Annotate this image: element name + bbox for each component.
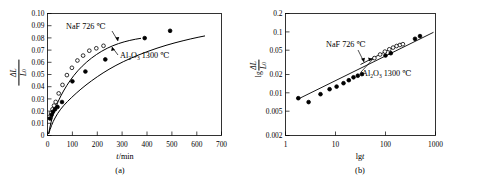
plot-b-yaxis-lg-prefix: lg — [255, 71, 264, 77]
plot-b-ytick-1: 0.005 — [266, 107, 283, 116]
plot-a-xaxis-units: /min — [119, 152, 134, 161]
plot-b-ytick-2: 0.01 — [270, 89, 283, 98]
plot-b-yaxis-denominator: L0 — [260, 60, 268, 71]
plot-b-y-ticks — [286, 14, 290, 136]
plot-a-ytick-8: 0.08 — [32, 34, 45, 43]
plot-a-ytick-9: 0.09 — [32, 21, 45, 30]
plot-a-xtick-6: 600 — [191, 140, 202, 149]
plot-a-x-ticklabels: 0 100 200 300 400 500 600 700 — [46, 140, 228, 149]
plot-b-annot-naf-arrowhead — [361, 58, 365, 62]
plot-a-annot-alumina-temp: 1300 — [140, 51, 160, 60]
plot-a-xtick-2: 200 — [92, 140, 103, 149]
plot-b-annot-naf-label: NaF 726 — [326, 40, 356, 49]
plot-b-ytick-4: 0.05 — [270, 46, 283, 55]
plot-b-svg: 0.2 0.1 0.05 0.02 0.01 0.005 0.002 1 10 … — [240, 0, 480, 187]
plot-b-yaxis-title: lg ΔL L0 — [250, 53, 267, 85]
plot-a-xtick-3: 300 — [117, 140, 128, 149]
plot-b-ytick-3: 0.02 — [270, 70, 283, 79]
plot-a-xaxis-title: t/min — [116, 152, 133, 161]
plot-a-ytick-1: 0.01 — [32, 119, 45, 128]
plot-b-ytick-5: 0.1 — [273, 28, 283, 37]
plot-a-frame — [48, 14, 222, 136]
panel-a-caption: (a) — [0, 166, 240, 175]
plot-a-annot-alumina-text: Al2O3 1300 ℃ — [120, 51, 169, 61]
plot-a-annot-naf-arrowhead — [115, 37, 119, 41]
plot-a-y-ticklabels: 0.10 0.09 0.08 0.07 0.06 0.05 0.04 0.03 … — [32, 9, 45, 140]
plot-b-x-ticklabels: 1 10 100 1000 — [284, 140, 444, 149]
plot-a-annotation-alumina: Al2O3 1300 ℃ — [111, 47, 169, 61]
plot-b-y-ticklabels: 0.2 0.1 0.05 0.02 0.01 0.005 0.002 — [266, 9, 283, 140]
plot-a-xtick-4: 400 — [141, 140, 152, 149]
plot-b-annot-naf-unit: ℃ — [356, 40, 365, 49]
plot-a-svg: 0.10 0.09 0.08 0.07 0.06 0.05 0.04 0.03 … — [0, 0, 240, 187]
plot-b-annot-alumina-unit: ℃ — [402, 69, 411, 78]
plot-a-ytick-3: 0.03 — [32, 95, 45, 104]
plot-b-annot-naf-text: NaF 726 ℃ — [326, 40, 366, 49]
plot-a-xtick-7: 700 — [216, 140, 227, 149]
plot-b-ytick-6: 0.2 — [273, 9, 283, 18]
plot-a-ytick-7: 0.07 — [32, 46, 45, 55]
panel-a: 0.10 0.09 0.08 0.07 0.06 0.05 0.04 0.03 … — [0, 0, 240, 187]
plot-b-x-ticks — [286, 132, 436, 136]
plot-a-annot-naf-label: NaF 726 — [66, 22, 96, 31]
plot-a-xtick-0: 0 — [46, 140, 50, 149]
plot-a-yaxis-title: ΔL L0 — [10, 60, 27, 86]
plot-b-annotation-naf: NaF 726 ℃ — [326, 40, 366, 62]
svg-text:lgt: lgt — [356, 152, 365, 161]
plot-b-ytick-0: 0.002 — [266, 131, 283, 140]
plot-a-annotation-naf: NaF 726 ℃ — [66, 22, 119, 41]
plot-b-annot-alumina-text: Al2O3 1300 ℃ — [362, 69, 411, 79]
plot-b-xtick-1: 10 — [332, 140, 340, 149]
plot-b-series-naf-markers — [373, 42, 405, 60]
plot-a-annot-naf-text: NaF 726 ℃ — [66, 22, 106, 31]
plot-a-ytick-2: 0.02 — [32, 107, 45, 116]
plot-a-ytick-5: 0.05 — [32, 70, 45, 79]
plot-b-xtick-3: 1000 — [428, 140, 443, 149]
plot-a-annot-naf-unit: ℃ — [96, 22, 105, 31]
plot-a-annot-alumina-unit: ℃ — [160, 51, 169, 60]
plot-a-x-ticks — [48, 132, 222, 136]
plot-b-xtick-2: 100 — [380, 140, 391, 149]
plot-a-ytick-0: 0 — [41, 131, 45, 140]
plot-a-ytick-10: 0.10 — [32, 9, 45, 18]
plot-b-xaxis-symbol: t — [362, 152, 365, 161]
plot-b-xtick-0: 1 — [284, 140, 288, 149]
plot-a-ytick-6: 0.06 — [32, 58, 45, 67]
plot-b-annot-alumina-temp: 1300 — [382, 69, 402, 78]
plot-a-yaxis-denominator: L0 — [20, 60, 28, 86]
plot-a-xtick-1: 100 — [67, 140, 78, 149]
plot-b-xaxis-title: lgt — [356, 152, 365, 161]
figure-container: 0.10 0.09 0.08 0.07 0.06 0.05 0.04 0.03 … — [0, 0, 480, 187]
svg-text:t/min: t/min — [116, 152, 133, 161]
panel-b: 0.2 0.1 0.05 0.02 0.01 0.005 0.002 1 10 … — [240, 0, 480, 187]
plot-a-ytick-4: 0.04 — [32, 82, 45, 91]
panel-b-caption: (b) — [240, 166, 480, 175]
plot-a-xtick-5: 500 — [166, 140, 177, 149]
